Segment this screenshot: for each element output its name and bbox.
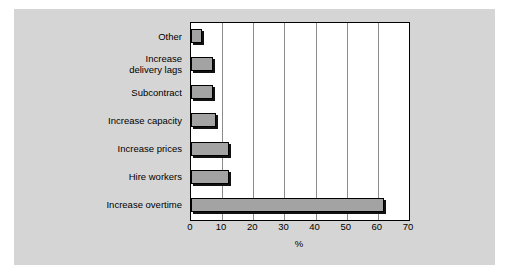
bar-increase-delivery-lags <box>191 57 213 71</box>
category-label-subcontract: Subcontract <box>12 87 182 98</box>
bar-chart-figure: Other Increase delivery lags Subcontract… <box>0 0 510 277</box>
bar-rows: Other Increase delivery lags Subcontract… <box>0 22 510 219</box>
bar-track <box>191 163 408 191</box>
bar-row: Increase delivery lags <box>0 50 510 78</box>
x-tick-20: 20 <box>237 221 267 232</box>
bar-other <box>191 29 202 43</box>
x-tick-60: 60 <box>362 221 392 232</box>
bar-row: Increase capacity <box>0 106 510 134</box>
bar-subcontract <box>191 85 213 99</box>
bar-row: Subcontract <box>0 78 510 106</box>
category-label-increase-delivery-lags: Increase delivery lags <box>12 53 182 75</box>
bar-track <box>191 22 408 50</box>
x-axis-ticks: 0 10 20 30 40 50 60 70 <box>190 221 410 237</box>
x-tick-70: 70 <box>393 221 423 232</box>
x-tick-30: 30 <box>268 221 298 232</box>
bar-row: Increase prices <box>0 135 510 163</box>
x-tick-40: 40 <box>300 221 330 232</box>
x-axis-label: % <box>190 238 408 249</box>
bar-hire-workers <box>191 170 229 184</box>
bar-track <box>191 191 408 219</box>
bar-track <box>191 106 408 134</box>
category-label-other: Other <box>12 31 182 42</box>
category-label-increase-capacity: Increase capacity <box>12 115 182 126</box>
category-label-increase-prices: Increase prices <box>12 143 182 154</box>
bar-increase-prices <box>191 142 229 156</box>
bar-row: Other <box>0 22 510 50</box>
category-label-hire-workers: Hire workers <box>12 171 182 182</box>
x-tick-50: 50 <box>331 221 361 232</box>
bar-increase-capacity <box>191 113 216 127</box>
x-tick-0: 0 <box>175 221 205 232</box>
bar-track <box>191 135 408 163</box>
bar-track <box>191 50 408 78</box>
bar-track <box>191 78 408 106</box>
bar-increase-overtime <box>191 198 384 212</box>
category-label-increase-overtime: Increase overtime <box>12 199 182 210</box>
bar-row: Increase overtime <box>0 191 510 219</box>
bar-row: Hire workers <box>0 163 510 191</box>
x-tick-10: 10 <box>206 221 236 232</box>
